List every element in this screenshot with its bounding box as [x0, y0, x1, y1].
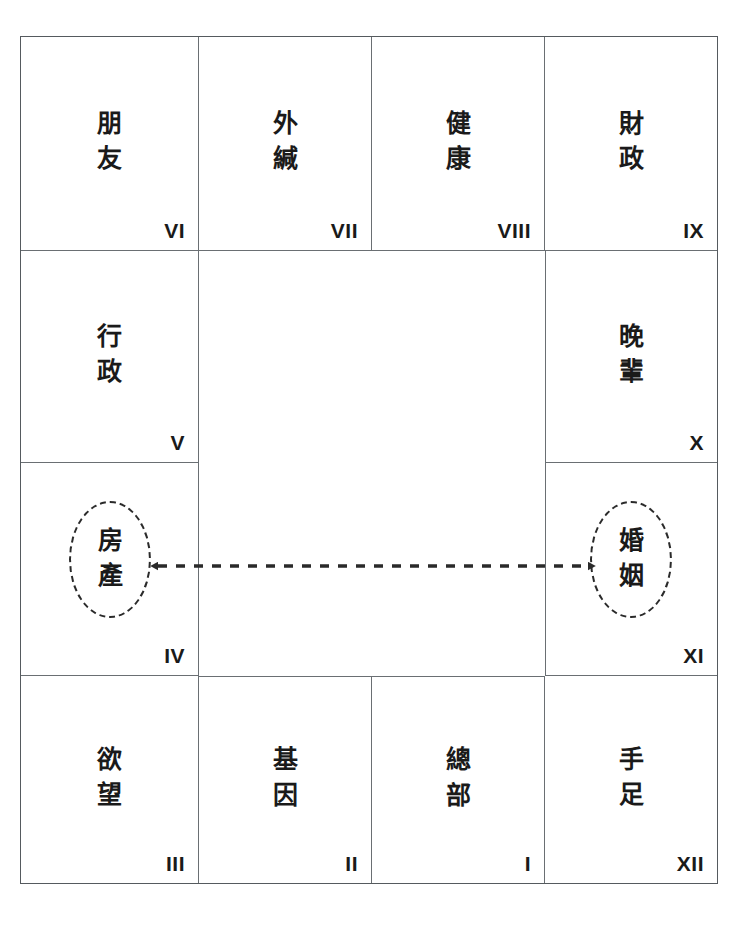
palace-label: 手 足 — [545, 741, 717, 812]
palace-index: VIII — [497, 219, 531, 243]
palace-cell-administration[interactable]: 行 政 V — [21, 251, 199, 463]
highlight-ellipse-marriage: 婚 姻 — [590, 501, 672, 618]
palace-label: 欲 望 — [21, 741, 198, 812]
palace-label: 基 因 — [199, 742, 371, 813]
palace-label: 外 緘 — [199, 105, 371, 176]
palace-cell-health[interactable]: 健 康 VIII — [372, 37, 545, 251]
palace-cell-genes[interactable]: 基 因 II — [199, 676, 372, 883]
palace-label: 行 政 — [21, 318, 198, 389]
highlight-ellipse-property: 房 產 — [69, 501, 151, 618]
palace-index: XI — [683, 644, 704, 668]
palace-cell-friends[interactable]: 朋 友 VI — [21, 37, 199, 251]
palace-label: 健 康 — [372, 105, 544, 176]
palace-index: V — [170, 431, 185, 455]
palace-cell-marriage[interactable]: 婚 姻 XI — [545, 463, 717, 676]
diagram-frame: 朋 友 VI 外 緘 VII 健 康 VIII 財 政 IX 行 政 V 晚 輩… — [20, 36, 718, 884]
palace-cell-headquarters[interactable]: 總 部 I — [372, 676, 545, 883]
palace-index: IV — [164, 644, 185, 668]
palace-cell-finance[interactable]: 財 政 IX — [545, 37, 717, 251]
palace-index: III — [166, 852, 185, 876]
center-blank-area — [199, 251, 545, 676]
palace-cell-desire[interactable]: 欲 望 III — [21, 676, 199, 883]
palace-label: 房 產 — [71, 523, 149, 594]
palace-cell-juniors[interactable]: 晚 輩 X — [545, 251, 717, 463]
palace-index: VII — [331, 219, 358, 243]
palace-index: VI — [164, 219, 185, 243]
palace-index: I — [525, 852, 531, 876]
palace-index: IX — [683, 219, 704, 243]
palace-cell-external-affinity[interactable]: 外 緘 VII — [199, 37, 372, 251]
palace-cell-property[interactable]: 房 產 IV — [21, 463, 199, 676]
twelve-palace-diagram: 朋 友 VI 外 緘 VII 健 康 VIII 財 政 IX 行 政 V 晚 輩… — [0, 0, 744, 926]
palace-label: 朋 友 — [21, 105, 198, 176]
palace-index: X — [689, 431, 704, 455]
palace-label: 婚 姻 — [592, 523, 670, 594]
palace-label: 財 政 — [545, 105, 717, 176]
palace-label: 晚 輩 — [546, 318, 717, 389]
palace-label: 總 部 — [372, 742, 544, 813]
palace-cell-siblings[interactable]: 手 足 XII — [545, 676, 717, 883]
palace-index: XII — [677, 852, 704, 876]
palace-index: II — [345, 852, 358, 876]
